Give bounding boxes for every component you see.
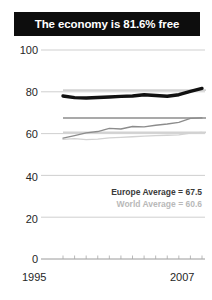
- y-tick-label: 20: [4, 214, 38, 225]
- legend-europe-average: Europe Average = 67.5: [111, 186, 202, 198]
- x-tick-start: 1995: [22, 272, 46, 283]
- y-tick-40: 40: [4, 172, 38, 183]
- y-tick-label: 60: [4, 129, 38, 140]
- y-tick-label: 80: [4, 87, 38, 98]
- chart-legend: Europe Average = 67.5 World Average = 60…: [111, 186, 202, 210]
- y-tick-80: 80: [4, 87, 38, 98]
- y-tick-label: 100: [4, 45, 38, 56]
- economic-freedom-chart-card: The economy is 81.6% free 100 80 60 40 2…: [0, 0, 212, 300]
- y-tick-label: 40: [4, 172, 38, 183]
- y-tick-100: 100: [4, 45, 38, 56]
- y-tick-0: 0: [4, 254, 38, 265]
- y-tick-label: 0: [4, 254, 38, 265]
- x-tick-end: 2007: [170, 272, 194, 283]
- y-tick-60: 60: [4, 129, 38, 140]
- y-tick-20: 20: [4, 214, 38, 225]
- legend-world-average: World Average = 60.6: [111, 198, 202, 210]
